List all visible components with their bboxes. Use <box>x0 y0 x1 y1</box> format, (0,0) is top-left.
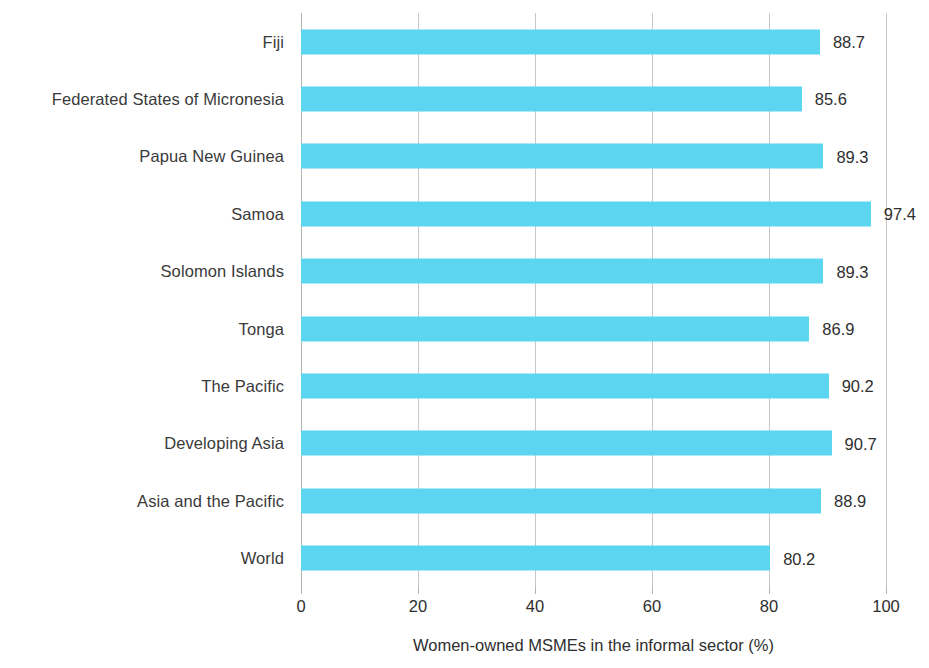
bar <box>301 431 832 456</box>
bar-chart-figure: Fiji88.7Federated States of Micronesia85… <box>0 0 929 668</box>
x-axis-title: Women-owned MSMEs in the informal sector… <box>301 637 886 654</box>
x-tick-label: 40 <box>526 598 544 615</box>
bar-value-label: 85.6 <box>815 91 847 108</box>
category-label: Solomon Islands <box>161 263 285 280</box>
bar <box>301 144 823 169</box>
bar-row: Solomon Islands89.3 <box>301 243 886 300</box>
x-tick-label: 60 <box>643 598 661 615</box>
bar <box>301 546 770 571</box>
x-tick-label: 0 <box>296 598 305 615</box>
bar-row: Developing Asia90.7 <box>301 415 886 472</box>
bar <box>301 87 802 112</box>
bar <box>301 201 871 226</box>
bar-row: Tonga86.9 <box>301 300 886 357</box>
plot-area: Fiji88.7Federated States of Micronesia85… <box>301 13 886 587</box>
category-label: World <box>241 550 284 567</box>
bar-with-value: 85.6 <box>301 87 847 112</box>
bar-row: World80.2 <box>301 530 886 587</box>
x-axis-ticks: 020406080100 <box>301 587 886 617</box>
bar-value-label: 89.3 <box>836 263 868 280</box>
category-label: Tonga <box>239 320 284 337</box>
bar-with-value: 88.7 <box>301 29 865 54</box>
category-label: Papua New Guinea <box>139 148 284 165</box>
x-tick-mark-100 <box>886 587 887 594</box>
bar-with-value: 88.9 <box>301 488 866 513</box>
bar-value-label: 86.9 <box>822 320 854 337</box>
category-label: Fiji <box>263 33 284 50</box>
bar-row: Asia and the Pacific88.9 <box>301 472 886 529</box>
bar <box>301 316 809 341</box>
x-tick-mark-60 <box>652 587 653 594</box>
bar-with-value: 90.2 <box>301 374 874 399</box>
bar-row: Fiji88.7 <box>301 13 886 70</box>
gridline-100 <box>886 13 887 587</box>
bar-value-label: 97.4 <box>884 206 916 223</box>
bar-value-label: 89.3 <box>836 148 868 165</box>
bar-with-value: 97.4 <box>301 201 916 226</box>
category-label: Samoa <box>231 206 284 223</box>
bar-value-label: 88.9 <box>834 493 866 510</box>
category-label: The Pacific <box>201 378 284 395</box>
bar-with-value: 90.7 <box>301 431 877 456</box>
bar-with-value: 86.9 <box>301 316 854 341</box>
bar-row: Federated States of Micronesia85.6 <box>301 70 886 127</box>
bar-row: Samoa97.4 <box>301 185 886 242</box>
bar-value-label: 88.7 <box>833 33 865 50</box>
x-tick-label: 20 <box>409 598 427 615</box>
x-tick-mark-20 <box>418 587 419 594</box>
bar <box>301 488 821 513</box>
bar <box>301 259 823 284</box>
x-tick-mark-0 <box>301 587 302 594</box>
bar <box>301 29 820 54</box>
bar-with-value: 89.3 <box>301 259 869 284</box>
bar-row: The Pacific90.2 <box>301 357 886 414</box>
bar-value-label: 90.7 <box>845 435 877 452</box>
category-label: Developing Asia <box>164 435 284 452</box>
x-tick-mark-80 <box>769 587 770 594</box>
category-label: Federated States of Micronesia <box>52 91 284 108</box>
category-label: Asia and the Pacific <box>137 493 284 510</box>
x-tick-label: 80 <box>760 598 778 615</box>
bar-with-value: 89.3 <box>301 144 869 169</box>
bar-with-value: 80.2 <box>301 546 815 571</box>
x-tick-label: 100 <box>872 598 900 615</box>
bar <box>301 374 829 399</box>
bar-row: Papua New Guinea89.3 <box>301 128 886 185</box>
bar-value-label: 90.2 <box>842 378 874 395</box>
x-tick-mark-40 <box>535 587 536 594</box>
bar-value-label: 80.2 <box>783 550 815 567</box>
